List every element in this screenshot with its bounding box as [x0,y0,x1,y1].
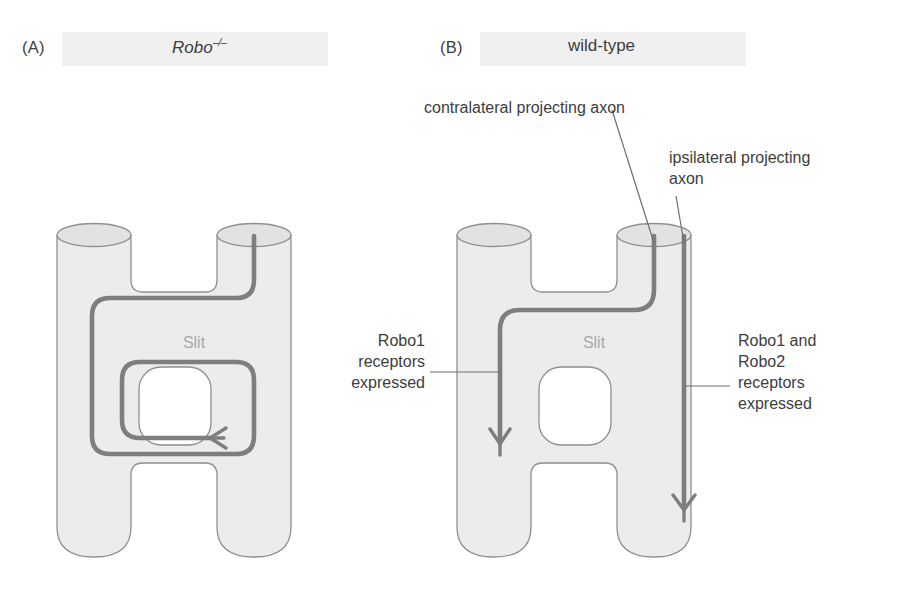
panel-b-midline-hole [539,367,611,445]
panel-a-midline-hole [139,367,211,445]
cns-diagram-svg: Slit Slit [0,0,908,600]
figure-root: (A) Robo–/– (B) wild-type Slit [0,0,908,600]
annotation-robo1-left: Robo1 receptors expressed [310,330,425,393]
annotation-robo1-robo2-right: Robo1 and Robo2 receptors expressed [738,330,888,414]
panel-a-left-tube-top [57,224,131,247]
annotation-ipsilateral-axon: ipsilateral projecting axon [669,147,810,189]
panel-b-left-tube-top [457,224,531,247]
panel-b-slit-label: Slit [583,334,606,351]
panel-a-slit-label: Slit [183,334,206,351]
leader-line-contralateral [612,110,654,243]
annotation-contralateral-axon: contralateral projecting axon [424,97,625,118]
